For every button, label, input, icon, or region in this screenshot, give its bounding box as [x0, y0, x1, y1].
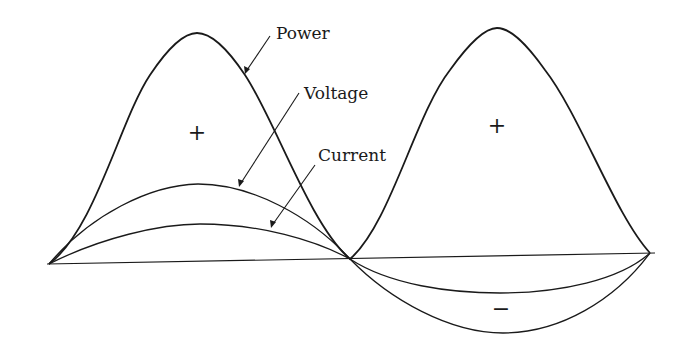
voltage-label: Voltage: [304, 85, 368, 102]
waveform-plot: [0, 0, 686, 353]
voltage-curve: [49, 184, 650, 293]
power-voltage-current-diagram: Power Voltage Current + + −: [0, 0, 686, 353]
current-label: Current: [318, 147, 386, 164]
power-label: Power: [276, 25, 330, 42]
power-leader-line: [247, 36, 270, 70]
minus-sign-negative-region: −: [492, 298, 510, 320]
current-curve: [49, 224, 650, 333]
current-leader-line: [273, 165, 315, 224]
plus-sign-second-hump: +: [488, 115, 506, 137]
voltage-leader-line: [241, 93, 299, 183]
plus-sign-first-hump: +: [188, 122, 206, 144]
